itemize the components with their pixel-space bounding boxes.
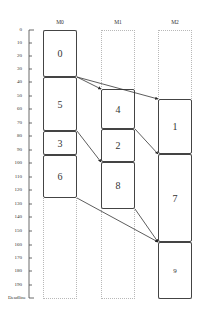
arrow-6-to-9 (77, 198, 158, 242)
arrow-4-to-7 (135, 129, 158, 154)
schedule-diagram: 0 10 20 30 40 50 60 70 80 90 100 110 120… (0, 0, 200, 313)
arrow-0-to-1 (77, 77, 158, 99)
arrow-0-to-4 (77, 77, 101, 89)
dependency-arrows (0, 0, 200, 313)
arrow-8-to-9 (135, 209, 158, 242)
arrow-5-to-8 (77, 131, 101, 162)
